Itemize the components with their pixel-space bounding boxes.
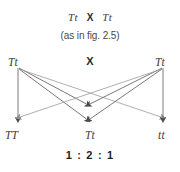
gamete-lines (18, 68, 163, 119)
line-left-parent-to-Tt-upper (19, 68, 87, 104)
top-cross-row: TtXTt (0, 11, 180, 23)
line-right-parent-to-TT (20, 69, 162, 117)
parent-genotype-right: Tt (155, 56, 165, 68)
offspring-genotype-middle: Tt (0, 129, 180, 141)
inheritance-lines-svg (0, 0, 180, 172)
top-left-genotype: Tt (68, 11, 78, 23)
line-left-parent-to-Tt-lower (19, 69, 87, 119)
figure-reference-note: (as in fig. 2.5) (0, 30, 180, 41)
genetics-cross-figure: TtXTt (as in fig. 2.5) Tt X Tt (0, 0, 180, 172)
line-right-parent-to-Tt-lower (90, 69, 162, 119)
offspring-genotype-right: tt (158, 129, 165, 141)
top-right-genotype: Tt (102, 11, 112, 23)
top-cross-symbol: X (78, 12, 103, 23)
phenotypic-ratio: 1 : 2 : 1 (0, 149, 180, 161)
line-right-parent-to-Tt-upper (90, 68, 162, 104)
parent-cross-symbol: X (0, 55, 180, 67)
line-left-parent-to-tt (19, 69, 161, 117)
